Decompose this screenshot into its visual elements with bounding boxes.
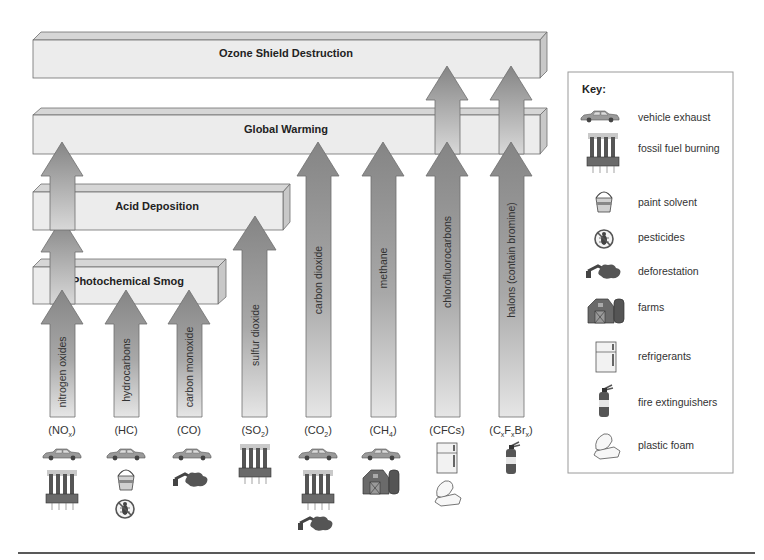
- formula-carbon-dioxide: (CO2): [304, 424, 332, 438]
- formula-halons: (CxFxBrx): [489, 424, 533, 438]
- effect-label-photochemical-smog: Photochemical Smog: [72, 275, 184, 287]
- smokestack-icon: [239, 444, 271, 484]
- smokestack-icon: [302, 470, 334, 510]
- car-icon: [43, 449, 81, 460]
- effect-label-global-warming: Global Warming: [244, 123, 328, 135]
- legend-label: farms: [638, 301, 664, 313]
- effect-label-ozone: Ozone Shield Destruction: [219, 47, 353, 59]
- arrow-label-nitrogen-oxides: nitrogen oxides: [56, 336, 68, 407]
- legend-label: plastic foam: [638, 439, 694, 451]
- effect-label-acid-deposition: Acid Deposition: [115, 200, 199, 212]
- refrigerator-icon: [596, 342, 616, 372]
- arrow-label-methane: methane: [377, 247, 389, 288]
- formula-nitrogen-oxides: (NOx): [48, 424, 75, 438]
- legend-label: pesticides: [638, 231, 685, 243]
- pollutant-methane: methane (CH4): [362, 142, 404, 438]
- legend-label: fire extinguishers: [638, 396, 717, 408]
- deforestation-icon: [298, 516, 333, 530]
- legend-label: paint solvent: [638, 196, 697, 208]
- arrow-label-chlorofluorocarbons: chlorofluorocarbons: [441, 216, 453, 308]
- legend-label: refrigerants: [638, 350, 691, 362]
- pollutant-carbon-monoxide: carbon monoxide (CO): [168, 290, 210, 436]
- pollutant-carbon-dioxide: carbon dioxide (CO2): [297, 142, 339, 438]
- legend-label: fossil fuel burning: [638, 142, 720, 154]
- arrow-label-sulfur-dioxide: sulfur dioxide: [249, 304, 261, 366]
- effect-bar-ozone: Ozone Shield Destruction: [33, 32, 547, 78]
- deforestation-icon: [173, 472, 208, 486]
- smokestack-icon: [46, 470, 78, 510]
- formula-carbon-monoxide: (CO): [177, 424, 201, 436]
- paint-bucket-icon: [118, 470, 134, 490]
- car-icon: [299, 449, 337, 460]
- no-bug-icon: [116, 500, 134, 518]
- barn-icon: [363, 470, 399, 494]
- barn-icon: [588, 299, 624, 323]
- arrow-label-carbon-monoxide: carbon monoxide: [183, 327, 195, 408]
- foam-container-icon: [435, 481, 461, 506]
- formula-chlorofluorocarbons: (CFCs): [429, 424, 464, 436]
- car-icon: [362, 449, 400, 460]
- legend-label: vehicle exhaust: [638, 111, 710, 123]
- no-bug-icon: [595, 230, 613, 248]
- pollutant-nitrogen-oxides: nitrogen oxides (NOx): [41, 290, 83, 438]
- pollutant-halons: halons (contain bromine) (CxFxBrx): [489, 142, 533, 438]
- pollutant-sulfur-dioxide: sulfur dioxide (SO2): [233, 216, 276, 438]
- fire-extinguisher-icon: [506, 442, 520, 474]
- pollutant-chlorofluorocarbons: chlorofluorocarbons (CFCs): [426, 142, 468, 436]
- arrow-label-halons: halons (contain bromine): [505, 202, 517, 318]
- car-icon: [173, 449, 211, 460]
- pollutant-hydrocarbons: hydrocarbons (HC): [105, 290, 147, 436]
- legend-title: Key:: [582, 83, 606, 95]
- car-icon: [107, 449, 145, 460]
- formula-hydrocarbons: (HC): [114, 424, 137, 436]
- legend: Key: vehicle exhaust fossil fuel burning…: [568, 72, 733, 473]
- formula-methane: (CH4): [369, 424, 396, 438]
- arrow-label-hydrocarbons: hydrocarbons: [120, 338, 132, 402]
- arrow-label-carbon-dioxide: carbon dioxide: [312, 246, 324, 314]
- legend-label: deforestation: [638, 265, 699, 277]
- pollution-effects-diagram: Ozone Shield Destruction Global Warming …: [0, 0, 764, 560]
- formula-sulfur-dioxide: (SO2): [241, 424, 268, 438]
- effect-bar-global-warming: Global Warming: [33, 108, 547, 154]
- refrigerator-icon: [437, 443, 457, 473]
